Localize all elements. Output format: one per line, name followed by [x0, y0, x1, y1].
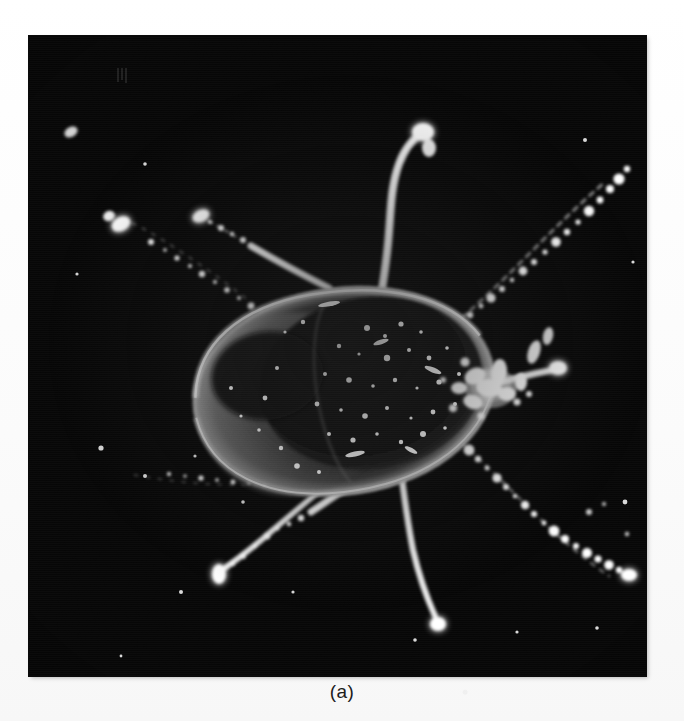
- figure-caption: (a): [0, 681, 684, 703]
- tick-darkfield-image: [29, 36, 646, 676]
- photomicrograph-plate: [29, 36, 646, 676]
- figure-alt-text: Dark-field photomicrograph of a tick: [0, 0, 1, 1]
- figure-page: (a) Dark-field photomicrograph of a tick: [0, 0, 684, 721]
